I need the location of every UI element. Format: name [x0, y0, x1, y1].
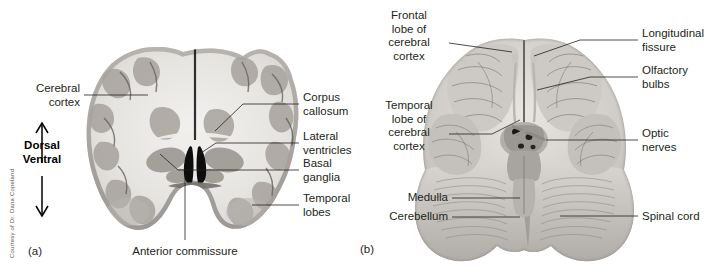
label-temporal-lobes: Temporal lobes — [303, 192, 363, 219]
label-cerebellum: Cerebellum — [360, 210, 448, 224]
brain-anatomy-figure: Courtesy of Dr. Dana Copeland Cerebral c… — [0, 0, 727, 277]
label-olfactory-bulbs: Olfactory bulbs — [642, 64, 724, 91]
panel-b-leader-lines — [449, 40, 638, 217]
label-corpus-callosum: Corpus callosum — [303, 91, 363, 118]
label-basal-ganglia: Basal ganglia — [303, 157, 363, 184]
label-anterior-commissure: Anterior commissure — [110, 245, 260, 259]
label-longitudinal-fissure: Longitudinal fissure — [642, 27, 724, 54]
label-temporal-lobe-of-cerebral-cortex: Temporal lobe of cerebral cortex — [373, 99, 445, 153]
label-optic-nerves: Optic nerves — [642, 127, 724, 154]
label-ventral: Ventral — [12, 153, 72, 165]
panel-a-coronal-brain-image — [0, 0, 727, 277]
panel-a-leader-lines — [84, 95, 299, 240]
orientation-arrows — [36, 123, 48, 216]
label-frontal-lobe-of-cerebral-cortex: Frontal lobe of cerebral cortex — [373, 9, 445, 63]
label-lateral-ventricles: Lateral ventricles — [303, 130, 363, 157]
label-dorsal: Dorsal — [12, 139, 72, 151]
label-spinal-cord: Spinal cord — [642, 210, 724, 224]
label-cerebral-cortex: Cerebral cortex — [14, 82, 80, 109]
image-credit: Courtesy of Dr. Dana Copeland — [9, 169, 15, 258]
panel-b-caption: (b) — [360, 243, 374, 255]
panel-a-caption: (a) — [28, 245, 42, 257]
label-medulla: Medulla — [370, 191, 448, 205]
